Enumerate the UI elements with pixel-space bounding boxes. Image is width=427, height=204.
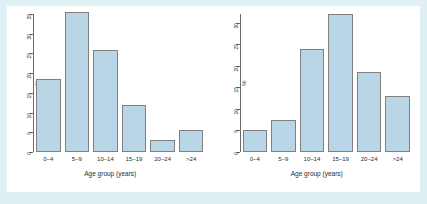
x-tick-label-left-1: 5–9	[72, 156, 82, 162]
x-tick-label-left-5: >24	[186, 156, 196, 162]
y-tick-label: 0	[28, 152, 33, 155]
bar-left-0	[36, 79, 61, 152]
y-tick-label: 10	[234, 109, 239, 115]
bar-left-4	[150, 140, 175, 152]
x-tick-label-right-0: 0–4	[250, 156, 260, 162]
figure-canvas: % 05101520253035 0–45–910–1415–1920–24>2…	[7, 6, 420, 192]
x-tick-label-left-4: 20–24	[154, 156, 171, 162]
x-tick-label-left-2: 10–14	[97, 156, 114, 162]
y-tick-label: 5	[28, 132, 33, 135]
y-tick-label: 20	[234, 66, 239, 72]
y-tick-label: 30	[28, 34, 33, 40]
x-tick-label-right-4: 20–24	[361, 156, 378, 162]
bar-group-right	[241, 14, 413, 152]
x-axis-title-right: Age group (years)	[214, 170, 421, 177]
bar-right-0	[243, 130, 268, 152]
y-tick-label: 0	[234, 152, 239, 155]
bar-right-3	[328, 14, 353, 152]
y-tick-label: 25	[28, 53, 33, 59]
bar-right-4	[357, 72, 382, 152]
bar-right-5	[385, 96, 410, 152]
x-tick-group-left: 0–45–910–1415–1920–24>24	[34, 152, 206, 166]
bar-group-left	[34, 14, 206, 152]
y-tick-label: 30	[234, 23, 239, 29]
x-tick-label-right-3: 15–19	[332, 156, 349, 162]
y-tick-label: 15	[234, 87, 239, 93]
bar-left-5	[179, 130, 204, 152]
x-tick-group-right: 0–45–910–1415–1920–24>24	[241, 152, 413, 166]
x-tick-label-right-2: 10–14	[304, 156, 321, 162]
x-tick-label-left-3: 15–19	[126, 156, 143, 162]
bar-left-1	[65, 12, 90, 152]
bar-left-3	[122, 105, 147, 152]
x-axis-title-left: Age group (years)	[7, 170, 214, 177]
y-tick-label: 25	[234, 44, 239, 50]
y-tick-label: 5	[234, 130, 239, 133]
x-tick-label-left-0: 0–4	[43, 156, 53, 162]
x-tick-label-right-5: >24	[393, 156, 403, 162]
chart-panel-left: % 05101520253035 0–45–910–1415–1920–24>2…	[7, 6, 214, 192]
y-tick-label: 35	[28, 14, 33, 20]
y-tick-label: 15	[28, 93, 33, 99]
bar-left-2	[93, 50, 118, 153]
x-tick-label-right-1: 5–9	[278, 156, 288, 162]
chart-panel-right: % 051015202530 0–45–910–1415–1920–24>24 …	[214, 6, 421, 192]
y-tick-label: 10	[28, 113, 33, 119]
plot-area-right: % 051015202530	[240, 14, 413, 152]
bar-right-2	[300, 49, 325, 153]
plot-area-left: % 05101520253035	[33, 14, 206, 152]
bar-right-1	[271, 120, 296, 152]
y-tick-label: 20	[28, 73, 33, 79]
